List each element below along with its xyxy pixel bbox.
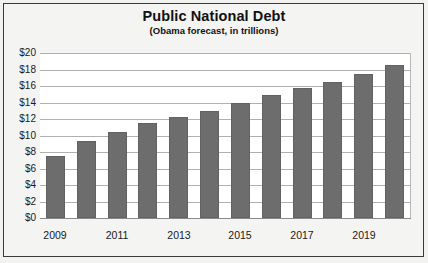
x-axis-tick-label: 2011 [97,229,137,241]
y-axis-tick-label: $14 [2,98,36,108]
bar [385,65,404,218]
y-axis-tick-label: $18 [2,65,36,75]
y-axis-tick-label: $6 [2,164,36,174]
x-axis-tick-label: 2017 [282,229,322,241]
bar [231,103,250,218]
y-axis-tick-label: $12 [2,114,36,124]
bar [354,74,373,218]
y-axis-labels: $20$18$16$14$12$10$8$6$4$2$0 [0,0,36,263]
bar [293,88,312,218]
bar [46,156,65,218]
x-axis-tick-label: 2013 [159,229,199,241]
y-axis-tick-label: $2 [2,197,36,207]
y-axis-tick-label: $20 [2,48,36,58]
bar [77,141,96,218]
bar-series [40,53,410,218]
chart-container: Public National Debt (Obama forecast, in… [0,0,428,263]
y-axis-tick-label: $8 [2,147,36,157]
y-axis-tick-label: $4 [2,180,36,190]
chart-title: Public National Debt [0,8,428,25]
bar [262,95,281,218]
bar [323,82,342,218]
bar [138,123,157,218]
chart-subtitle: (Obama forecast, in trillions) [0,25,428,37]
bar [108,132,127,218]
x-axis-tick-label: 2019 [344,229,384,241]
x-axis-tick-label: 2015 [220,229,260,241]
y-axis-tick-label: $10 [2,131,36,141]
chart-title-block: Public National Debt (Obama forecast, in… [0,8,428,37]
bar [169,117,188,218]
x-axis-line [40,218,411,219]
bar [200,111,219,218]
x-axis-tick-label: 2009 [35,229,75,241]
y-axis-tick-label: $0 [2,213,36,223]
y-axis-tick-label: $16 [2,81,36,91]
